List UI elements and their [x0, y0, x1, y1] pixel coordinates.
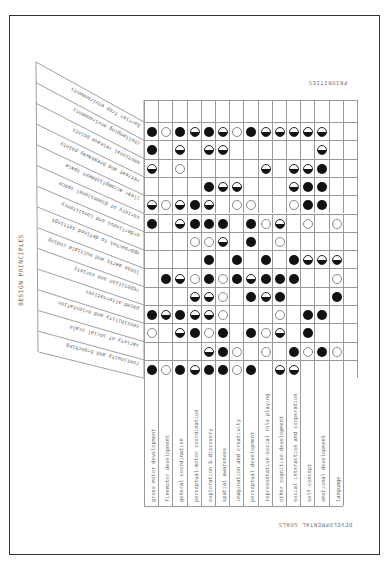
matrix-cell	[144, 159, 158, 177]
matrix-cell	[258, 323, 272, 341]
matrix-cell	[172, 323, 186, 341]
header-cell	[300, 100, 314, 122]
half-circle-icon	[246, 274, 256, 284]
header-cell	[314, 100, 328, 122]
matrix-cell	[314, 122, 328, 140]
matrix-cell	[172, 268, 186, 286]
matrix-cell	[144, 214, 158, 232]
matrix-cell	[187, 250, 201, 268]
matrix-cell	[243, 177, 257, 195]
matrix-cell	[286, 287, 300, 305]
matrix-cell	[343, 232, 357, 250]
half-circle-icon	[204, 347, 214, 357]
matrix-cell	[158, 268, 172, 286]
open-circle-icon	[261, 219, 271, 229]
matrix-cell	[243, 268, 257, 286]
matrix-cell	[258, 195, 272, 213]
row-label: approaches to defined settings	[51, 218, 141, 257]
matrix-cell	[314, 232, 328, 250]
matrix-cell	[215, 268, 229, 286]
matrix-cell	[314, 159, 328, 177]
row-label: loose parts and multiple coding	[47, 237, 140, 276]
matrix-cell	[286, 268, 300, 286]
column-label: imagination and creativity	[235, 419, 241, 502]
half-circle-icon	[161, 310, 171, 320]
matrix-cell	[314, 140, 328, 158]
matrix-cell	[215, 305, 229, 323]
full-circle-icon	[147, 145, 157, 155]
half-circle-icon	[190, 292, 200, 302]
column-label: representation-social role playing	[264, 394, 270, 502]
matrix-cell	[329, 305, 343, 323]
matrix-cell	[300, 268, 314, 286]
open-circle-icon	[147, 328, 157, 338]
open-circle-icon	[303, 219, 313, 229]
matrix-cell	[243, 323, 257, 341]
half-circle-icon	[204, 145, 214, 155]
matrix-cell	[144, 177, 158, 195]
matrix-cell	[343, 140, 357, 158]
matrix-cell	[314, 342, 328, 360]
full-circle-icon	[218, 347, 228, 357]
matrix-cell	[172, 214, 186, 232]
header-cell	[144, 100, 158, 122]
open-circle-icon	[218, 292, 228, 302]
matrix-cell	[272, 323, 286, 341]
column-label-border	[343, 370, 344, 506]
half-circle-icon	[204, 310, 214, 320]
half-circle-icon	[275, 219, 285, 229]
header-cell	[229, 100, 243, 122]
matrix-cell	[286, 159, 300, 177]
matrix-cell	[243, 140, 257, 158]
matrix-cell	[158, 140, 172, 158]
matrix-cell	[272, 287, 286, 305]
half-circle-icon	[303, 164, 313, 174]
matrix-cell	[258, 342, 272, 360]
column-label: gross motor development	[150, 429, 156, 502]
matrix-cell	[329, 250, 343, 268]
matrix-cell	[158, 232, 172, 250]
matrix-cell	[300, 232, 314, 250]
matrix-cell	[215, 214, 229, 232]
matrix-cell	[172, 159, 186, 177]
half-circle-icon	[175, 219, 185, 229]
matrix-cell	[158, 250, 172, 268]
matrix-cell	[144, 195, 158, 213]
full-circle-icon	[218, 328, 228, 338]
row-label: clear accomplishment space	[64, 163, 140, 202]
full-circle-icon	[161, 274, 171, 284]
matrix-cell	[172, 342, 186, 360]
matrix-cell	[343, 159, 357, 177]
matrix-cell	[314, 177, 328, 195]
matrix-cell	[329, 159, 343, 177]
half-circle-icon	[232, 182, 242, 192]
matrix-cell	[201, 323, 215, 341]
matrix-cell	[272, 342, 286, 360]
header-cell	[286, 100, 300, 122]
matrix-cell	[172, 305, 186, 323]
full-circle-icon	[147, 310, 157, 320]
matrix-cell	[144, 140, 158, 158]
full-circle-icon	[246, 219, 256, 229]
matrix-cell	[201, 214, 215, 232]
full-circle-icon	[246, 292, 256, 302]
matrix-cell	[229, 140, 243, 158]
full-circle-icon	[317, 347, 327, 357]
matrix-cell	[300, 159, 314, 177]
matrix-cell	[201, 195, 215, 213]
column-label: perceptual development	[249, 432, 255, 502]
matrix-cell	[229, 214, 243, 232]
column-label-cell: finemotor development	[158, 370, 172, 506]
open-circle-icon	[275, 310, 285, 320]
matrix-cell	[329, 342, 343, 360]
full-circle-icon	[275, 292, 285, 302]
half-circle-icon	[175, 328, 185, 338]
matrix-cell	[243, 287, 257, 305]
full-circle-icon	[246, 127, 256, 137]
matrix-cell	[201, 159, 215, 177]
matrix-cell	[229, 287, 243, 305]
matrix-cell	[329, 177, 343, 195]
open-circle-icon	[332, 219, 342, 229]
matrix-cell	[329, 214, 343, 232]
open-circle-icon	[275, 237, 285, 247]
